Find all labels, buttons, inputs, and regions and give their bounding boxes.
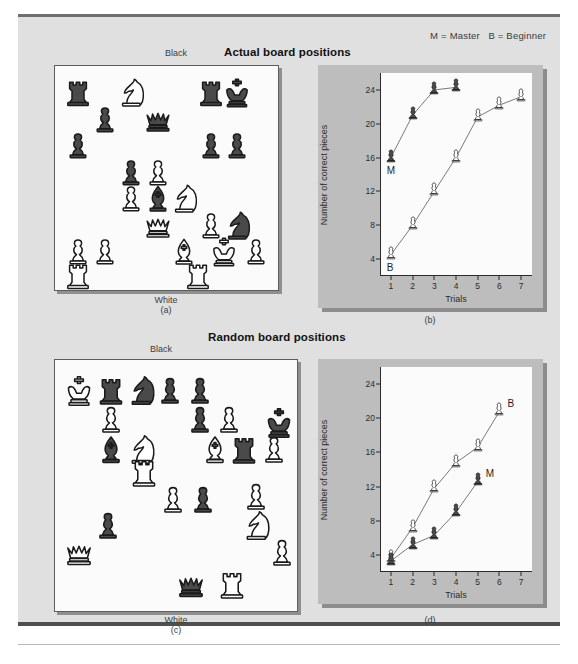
data-point-b-trial-3 <box>427 479 442 498</box>
data-point-b-trial-6 <box>492 402 507 421</box>
chess-piece-black-knight-icon <box>125 375 156 406</box>
legend-text: M = Master B = Beginner <box>430 30 546 41</box>
x-tick-mark <box>434 276 435 280</box>
chessboard-actual <box>54 65 279 291</box>
data-point-b-trial-5 <box>470 107 485 126</box>
x-tick-mark <box>412 276 413 280</box>
panel-a-title: Actual board positions <box>224 46 351 58</box>
data-point-m-trial-4 <box>449 78 464 97</box>
data-point-b-trial-2 <box>405 216 420 235</box>
series-label-b: B <box>387 262 394 273</box>
chart-b-container: 48121620241234567TrialsNumber of correct… <box>318 65 543 308</box>
x-tick-mark <box>477 276 478 280</box>
board-surface <box>54 359 298 612</box>
y-tick-label: 16 <box>366 447 375 457</box>
chess-piece-black-rook-icon <box>96 375 127 406</box>
chess-piece-white-pawn-icon <box>214 405 245 436</box>
x-tick-mark <box>434 572 435 576</box>
x-tick-mark <box>521 276 522 280</box>
chess-piece-white-pawn-icon <box>143 158 173 188</box>
chess-piece-white-pawn-icon <box>267 538 298 569</box>
series-label-m: M <box>387 165 395 176</box>
y-tick-label: 8 <box>370 516 375 526</box>
x-tick-mark <box>521 572 522 576</box>
plot-area-b: 48121620241234567TrialsNumber of correct… <box>380 73 532 276</box>
x-tick-label: 7 <box>519 577 524 587</box>
x-tick-label: 2 <box>410 281 415 291</box>
panel-c-bottom-label: White <box>146 615 206 625</box>
series-label-b: B <box>507 398 514 409</box>
chess-piece-white-rook-icon <box>128 458 159 489</box>
chart-d-container: 48121620241234567TrialsNumber of correct… <box>318 359 543 604</box>
chess-piece-black-king-icon <box>222 78 252 108</box>
y-tick-label: 16 <box>366 153 375 163</box>
top-rule <box>18 14 560 17</box>
x-tick-label: 4 <box>454 577 459 587</box>
chess-piece-white-pawn-icon <box>96 405 127 436</box>
x-tick-label: 7 <box>519 281 524 291</box>
chess-piece-white-rook-icon <box>183 261 213 291</box>
data-point-b-trial-3 <box>427 182 442 201</box>
data-point-m-trial-3 <box>427 80 442 99</box>
x-tick-label: 1 <box>388 281 393 291</box>
x-tick-mark <box>456 572 457 576</box>
data-point-m-trial-4 <box>449 503 464 522</box>
chess-piece-white-pawn-icon <box>196 211 226 241</box>
data-point-b-trial-6 <box>492 96 507 115</box>
x-tick-label: 5 <box>475 281 480 291</box>
chess-piece-black-pawn-icon <box>184 405 215 436</box>
y-tick-label: 8 <box>370 220 375 230</box>
x-tick-label: 2 <box>410 577 415 587</box>
chess-piece-black-pawn-icon <box>93 511 124 542</box>
panel-c-top-label: Black <box>131 344 191 354</box>
y-tick-label: 4 <box>370 254 375 264</box>
y-axis-label: Number of correct pieces <box>319 124 329 225</box>
x-tick-mark <box>477 572 478 576</box>
chess-piece-black-pawn-icon <box>90 105 120 135</box>
chess-piece-black-pawn-icon <box>196 131 226 161</box>
x-tick-mark <box>390 276 391 280</box>
bottom-rule <box>18 622 560 626</box>
chess-piece-white-pawn-icon <box>241 237 271 267</box>
chess-piece-black-pawn-icon <box>63 131 93 161</box>
chess-piece-black-bishop-icon <box>96 434 127 465</box>
chess-piece-white-pawn-icon <box>258 434 289 465</box>
y-tick-label: 24 <box>366 379 375 389</box>
x-tick-mark <box>456 276 457 280</box>
chess-piece-black-pawn-icon <box>184 375 215 406</box>
x-tick-label: 5 <box>475 577 480 587</box>
figure-container: M = Master B = Beginner Actual board pos… <box>18 14 560 626</box>
y-tick-label: 20 <box>366 413 375 423</box>
board-surface <box>54 65 279 291</box>
x-tick-label: 3 <box>432 577 437 587</box>
plot-area-d: 48121620241234567TrialsNumber of correct… <box>380 367 532 572</box>
y-tick-label: 12 <box>366 482 375 492</box>
page-bottom-rule <box>18 644 560 645</box>
chess-piece-white-king-icon <box>209 237 239 267</box>
x-tick-mark <box>412 572 413 576</box>
chess-piece-white-queen-icon <box>63 538 94 569</box>
x-tick-label: 6 <box>497 577 502 587</box>
chess-piece-white-knight-icon <box>116 78 146 108</box>
chess-piece-black-rook-icon <box>196 78 226 108</box>
series-label-m: M <box>486 468 494 479</box>
data-point-m-trial-2 <box>405 106 420 125</box>
x-tick-label: 4 <box>454 281 459 291</box>
y-tick-label: 20 <box>366 119 375 129</box>
panel-c-caption: (c) <box>171 625 182 635</box>
panel-c-title: Random board positions <box>208 331 346 343</box>
x-axis-label: Trials <box>445 590 467 600</box>
chess-piece-black-pawn-icon <box>222 131 252 161</box>
chess-piece-black-pawn-icon <box>155 375 186 406</box>
y-tick-label: 4 <box>370 550 375 560</box>
x-axis-label: Trials <box>445 294 467 304</box>
panel-a-caption: (a) <box>161 305 172 315</box>
panel-a-bottom-label: White <box>136 295 196 305</box>
chess-piece-white-pawn-icon <box>116 184 146 214</box>
chess-piece-black-pawn-icon <box>187 484 218 515</box>
data-point-m-trial-3 <box>427 526 442 545</box>
y-tick-label: 24 <box>366 85 375 95</box>
chess-piece-white-pawn-icon <box>90 237 120 267</box>
x-tick-mark <box>390 572 391 576</box>
series-lines <box>380 73 532 276</box>
